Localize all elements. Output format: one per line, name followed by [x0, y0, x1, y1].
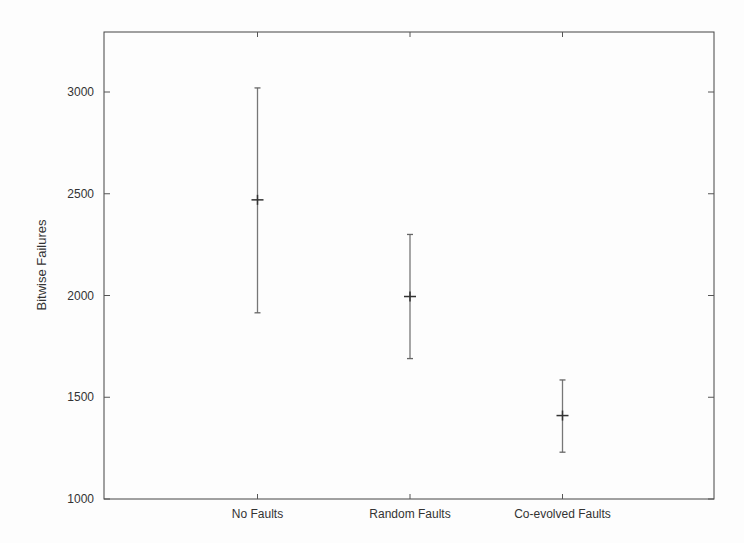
error-bar [252, 88, 264, 313]
x-tick-label: No Faults [232, 507, 283, 521]
x-tick-label: Co-evolved Faults [514, 507, 611, 521]
x-axis-ticks: No FaultsRandom FaultsCo-evolved Faults [232, 32, 611, 521]
y-axis-ticks: 10001500200025003000 [67, 85, 714, 506]
errorbar-chart: 10001500200025003000 No FaultsRandom Fau… [0, 0, 744, 543]
y-tick-label: 1500 [67, 390, 94, 404]
y-tick-label: 1000 [67, 492, 94, 506]
error-bars [252, 88, 569, 452]
y-axis-label: Bitwise Failures [34, 219, 49, 311]
y-tick-label: 2500 [67, 187, 94, 201]
plot-frame [104, 32, 714, 499]
y-tick-label: 2000 [67, 289, 94, 303]
y-tick-label: 3000 [67, 85, 94, 99]
x-tick-label: Random Faults [369, 507, 450, 521]
error-bar [557, 380, 569, 452]
error-bar [404, 234, 416, 358]
